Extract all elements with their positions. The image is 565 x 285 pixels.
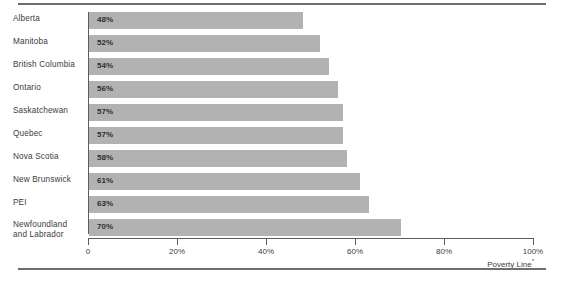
category-label: Quebec [13,129,85,139]
x-axis-tick [444,239,445,245]
bar: 56% [89,81,338,98]
category-label: Saskatchewan [13,106,85,116]
bar: 48% [89,12,303,29]
bar-value-label: 52% [97,38,113,47]
x-axis-tick-label: 80% [436,247,452,256]
bar-row: Ontario56% [0,79,565,102]
bar-value-label: 61% [97,176,113,185]
x-axis-tick-label: 60% [347,247,363,256]
category-label: Alberta [13,14,85,24]
plot-area: Alberta48%Manitoba52%British Columbia54%… [0,10,565,238]
category-label: New Brunswick [13,175,85,185]
bar-row: Manitoba52% [0,33,565,56]
bar: 52% [89,35,320,52]
bar: 63% [89,196,369,213]
bar: 57% [89,127,343,144]
x-axis-tick-label: 40% [258,247,274,256]
top-divider-rule [18,3,546,5]
bar: 70% [89,219,401,236]
bar-value-label: 63% [97,199,113,208]
bar-row: Saskatchewan57% [0,102,565,125]
x-axis-tick-label: 100% [523,247,543,256]
bar-value-label: 57% [97,130,113,139]
bar-value-label: 56% [97,84,113,93]
bar-row: Alberta48% [0,10,565,33]
bar-rows: Alberta48%Manitoba52%British Columbia54%… [0,10,565,247]
x-axis-tick-label: 20% [169,247,185,256]
bar: 54% [89,58,329,75]
bar-row: New Brunswick61% [0,171,565,194]
bottom-divider-rule [18,268,546,270]
x-axis-tick [177,239,178,245]
chart-figure: Alberta48%Manitoba52%British Columbia54%… [0,0,565,285]
x-axis-tick [88,239,89,245]
x-axis-tick [266,239,267,245]
value-axis-line [88,238,534,239]
category-label: Ontario [13,83,85,93]
category-label: Newfoundland and Labrador [13,220,85,240]
x-axis-tick-label: 0 [86,247,90,256]
bar: 61% [89,173,360,190]
x-axis-tick [533,239,534,245]
category-label: Manitoba [13,37,85,47]
bar-row: British Columbia54% [0,56,565,79]
bar-row: Nova Scotia58% [0,148,565,171]
category-label: PEI [13,198,85,208]
bar: 58% [89,150,347,167]
x-axis-tick [355,239,356,245]
bar-value-label: 48% [97,15,113,24]
bar-value-label: 58% [97,153,113,162]
bar-row: PEI63% [0,194,565,217]
bar-value-label: 57% [97,107,113,116]
bar-value-label: 54% [97,61,113,70]
bar-row: Newfoundland and Labrador70% [0,217,565,247]
bar: 57% [89,104,343,121]
bar-row: Quebec57% [0,125,565,148]
category-label: Nova Scotia [13,152,85,162]
bar-value-label: 70% [97,222,113,231]
poverty-line-asterisk: * [532,258,534,264]
category-label: British Columbia [13,60,85,70]
